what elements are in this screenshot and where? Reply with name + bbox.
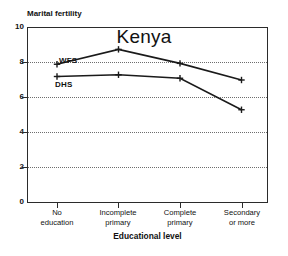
x-tick-label-secondary-or-more: Secondary or more (205, 208, 279, 227)
series-markers-wfs (54, 46, 245, 83)
chart-figure: Marital fertility Kenya 10 8 6 4 2 0 WFS… (0, 0, 288, 256)
series-markers-dhs (54, 72, 245, 113)
series-line-dhs (57, 75, 242, 110)
series-label-dhs: DHS (55, 80, 73, 89)
series-label-wfs: WFS (59, 56, 77, 65)
x-axis-title: Educational level (27, 231, 268, 241)
